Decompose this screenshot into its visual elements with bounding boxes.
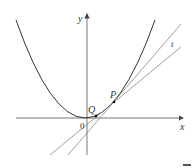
y-axis-label: y <box>77 13 83 24</box>
tangent-line-t <box>68 24 181 155</box>
secant-line-pq <box>50 47 181 155</box>
point-q-label: Q <box>88 104 96 115</box>
origin-label: 0 <box>80 121 85 131</box>
point-q <box>95 115 98 118</box>
point-p <box>113 101 116 104</box>
parabola-curve <box>16 20 155 118</box>
parabola-diagram: y x 0 Q P t <box>0 0 194 168</box>
point-p-label: P <box>109 89 116 100</box>
x-axis-label: x <box>179 121 185 132</box>
corner-mark <box>183 164 191 166</box>
tangent-label: t <box>171 39 174 49</box>
